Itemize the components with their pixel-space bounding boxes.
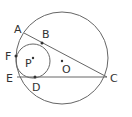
label-e: E <box>6 72 13 85</box>
geometry-diagram: A B C D E F P O <box>0 0 132 117</box>
label-c: C <box>110 72 118 85</box>
label-o: O <box>62 63 71 76</box>
label-b: B <box>42 28 50 41</box>
label-a: A <box>14 23 22 36</box>
label-f: F <box>5 50 11 63</box>
point-b <box>41 42 44 45</box>
circle-p <box>16 44 50 78</box>
label-d: D <box>32 81 40 94</box>
point-f <box>15 55 18 58</box>
point-p <box>32 57 34 59</box>
label-p: P <box>25 57 32 70</box>
point-o <box>61 60 63 62</box>
point-d <box>34 76 37 79</box>
